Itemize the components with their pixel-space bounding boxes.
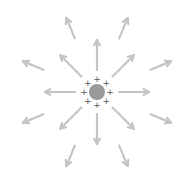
field-arrow [60,55,81,76]
field-arrow [119,18,128,38]
field-arrow [151,61,171,70]
plus-sign: + [93,74,101,84]
field-arrow [94,40,100,70]
plus-sign: + [84,78,92,88]
field-arrow [66,146,75,166]
field-diagram: ++++++++ [0,0,194,184]
field-arrow [119,146,128,166]
plus-sign: + [102,78,110,88]
field-arrow [113,55,134,76]
plus-sign: + [80,87,88,97]
field-arrow [23,61,43,70]
field-arrow [151,114,171,123]
field-arrow [45,89,75,95]
plus-sign: + [84,96,92,106]
field-arrow [23,114,43,123]
field-arrow [60,108,81,129]
plus-sign: + [93,100,101,110]
field-arrow [113,108,134,129]
field-arrow [66,18,75,38]
field-arrow [119,89,149,95]
field-arrow [94,114,100,144]
plus-sign: + [102,96,110,106]
